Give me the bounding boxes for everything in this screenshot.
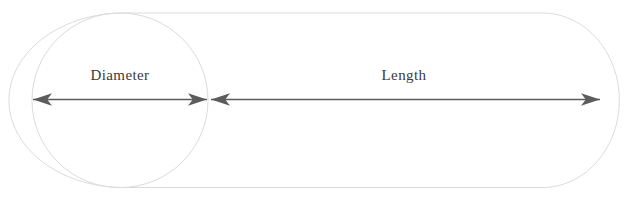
diameter-label: Diameter: [90, 67, 149, 83]
length-label: Length: [382, 67, 427, 83]
length-dimension: Length: [211, 67, 600, 106]
capsule-outline-group: [9, 13, 620, 188]
diameter-dimension: Diameter: [33, 67, 207, 106]
diameter-circle: [32, 13, 208, 188]
capsule-right-cap: [545, 13, 619, 188]
cylinder-dimension-diagram: Diameter Length: [0, 0, 627, 200]
capsule-left-cap: [9, 13, 120, 188]
diagram-canvas: Diameter Length: [0, 0, 627, 200]
